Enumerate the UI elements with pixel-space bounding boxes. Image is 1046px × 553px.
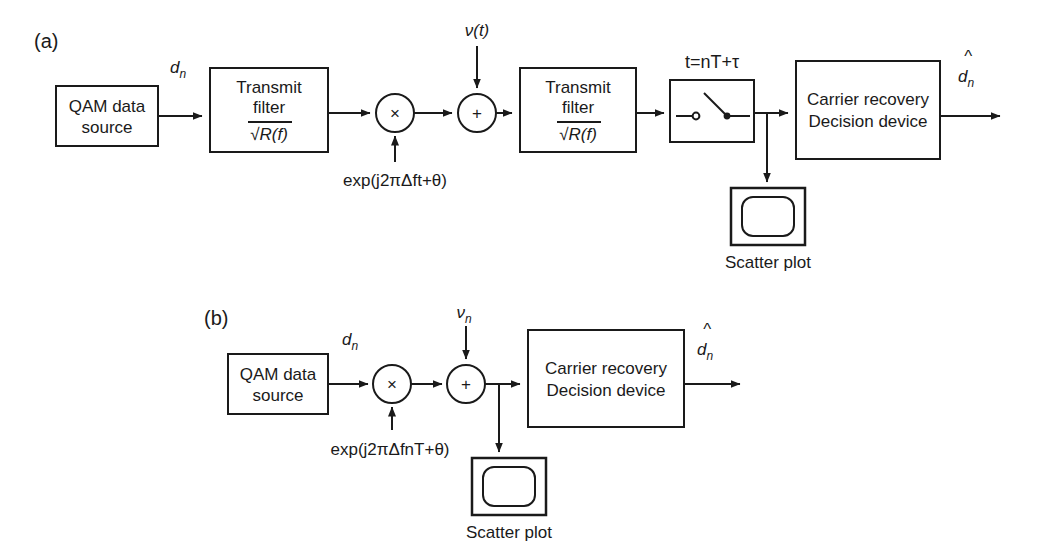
switch-left-terminal-a [693,113,700,120]
qam-source-box-a [56,86,158,146]
noise-label-b: νn [456,303,472,326]
sampler-switch-box-a [670,80,754,142]
output-dn-label-a: dn [958,67,974,90]
signal-dn-label-a: dn [170,58,186,81]
carrier-recovery-box-a [796,61,940,159]
transmit-filter-1-line1-a: Transmit [236,78,302,97]
carrier-recovery-line2-b: Decision device [546,381,665,400]
noise-label-a: ν(t) [465,21,490,40]
scatter-plot-screen-a [742,197,794,236]
transmit-filter-2-line1-a: Transmit [545,78,611,97]
multiplier-symbol-a: × [390,104,400,123]
carrier-recovery-line1-a: Carrier recovery [807,90,929,109]
adder-symbol-b: + [461,375,471,394]
carrier-formula-a: exp(j2πΔft+θ) [343,171,447,190]
transmit-filter-2-line2-a: filter [562,98,594,117]
block-diagram-svg: (a) QAM data source dn Transmit filter √… [0,0,1046,553]
panel-b-label: (b) [204,307,228,329]
qam-source-label-line2-a: source [81,118,132,137]
multiplier-symbol-b: × [387,375,397,394]
scatter-plot-screen-b [483,467,535,506]
qam-source-label-line2-b: source [252,386,303,405]
figure-root: (a) QAM data source dn Transmit filter √… [0,0,1046,553]
carrier-recovery-box-b [528,330,684,427]
carrier-recovery-line1-b: Carrier recovery [545,359,667,378]
sample-time-label-a: t=nT+τ [685,52,739,72]
carrier-formula-b: exp(j2πΔfnT+θ) [331,440,450,459]
scatter-plot-caption-a: Scatter plot [725,253,811,272]
transmit-filter-1-line2-a: filter [253,98,285,117]
output-hat-a: ^ [964,47,973,66]
transmit-filter-2-sqrt-a: √R(f) [559,125,597,144]
qam-source-box-b [228,354,328,414]
qam-source-label-line1-b: QAM data [240,365,317,384]
output-hat-b: ^ [703,320,712,339]
scatter-plot-caption-b: Scatter plot [466,523,552,542]
qam-source-label-line1-a: QAM data [69,97,146,116]
adder-symbol-a: + [472,104,482,123]
output-dn-label-b: dn [697,340,713,363]
signal-dn-label-b: dn [342,330,358,353]
carrier-recovery-line2-a: Decision device [808,112,927,131]
panel-a-label: (a) [34,30,58,52]
transmit-filter-1-sqrt-a: √R(f) [250,125,288,144]
